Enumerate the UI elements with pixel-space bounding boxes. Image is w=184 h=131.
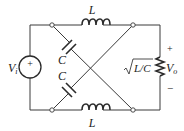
load-resistor-label: L/C [124,59,153,74]
lower-capacitor-label: C [58,69,67,83]
load-branch [156,25,164,110]
voltage-source-icon: + [19,56,41,78]
circuit-diagram: + Vi L L C [0,0,184,131]
node-bottom-left [50,108,54,112]
bottom-inductor-icon [82,104,110,110]
source-plus-sign: + [27,58,33,69]
load-resistor-icon [156,57,164,76]
output-plus-sign: + [167,43,173,54]
output-voltage-label: Vo [166,61,177,76]
svg-text:L/C: L/C [133,62,151,74]
node-top-right [131,23,135,27]
upper-capacitor-label: C [58,53,67,67]
bottom-branch: L [52,104,160,130]
node-top-left [50,23,54,27]
top-inductor-label: L [88,3,96,17]
output-minus-sign: − [167,82,173,94]
top-inductor-icon [82,19,110,25]
bottom-inductor-label: L [88,116,96,130]
top-branch: L [52,3,160,25]
source-label: Vi [8,61,18,76]
node-bottom-right [131,108,135,112]
